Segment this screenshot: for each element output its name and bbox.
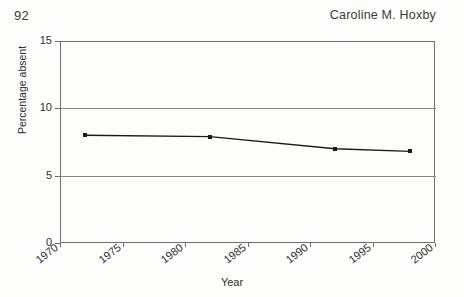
y-axis-title: Percentage absent: [16, 10, 28, 170]
y-tick-label-5: 5: [12, 170, 52, 181]
x-tick-mark-1985: [248, 243, 249, 247]
y-tick-label-10: 10: [12, 102, 52, 113]
y-tick-label-15: 15: [12, 35, 52, 46]
x-tick-label-1990: 1990: [284, 242, 310, 266]
plot-area-frame: [60, 41, 435, 243]
x-tick-mark-1970: [60, 243, 61, 247]
x-tick-label-1980: 1980: [159, 242, 185, 266]
x-tick-label-2000: 2000: [409, 242, 435, 266]
x-tick-label-1975: 1975: [97, 242, 123, 266]
x-tick-label-1985: 1985: [222, 242, 248, 266]
x-tick-mark-2000: [435, 243, 436, 247]
x-tick-label-1995: 1995: [347, 242, 373, 266]
x-tick-mark-1995: [373, 243, 374, 247]
x-tick-mark-1980: [185, 243, 186, 247]
data-point-marker: [83, 133, 87, 137]
x-axis-title: Year: [0, 276, 464, 288]
gridline-y-10: [61, 108, 436, 109]
gridline-y-5: [61, 176, 436, 177]
data-point-marker: [333, 147, 337, 151]
data-point-marker: [208, 135, 212, 139]
line-chart-figure: Percentage absent 051015 197019751980198…: [0, 0, 464, 297]
data-point-marker: [408, 149, 412, 153]
x-tick-mark-1975: [123, 243, 124, 247]
x-tick-mark-1990: [310, 243, 311, 247]
